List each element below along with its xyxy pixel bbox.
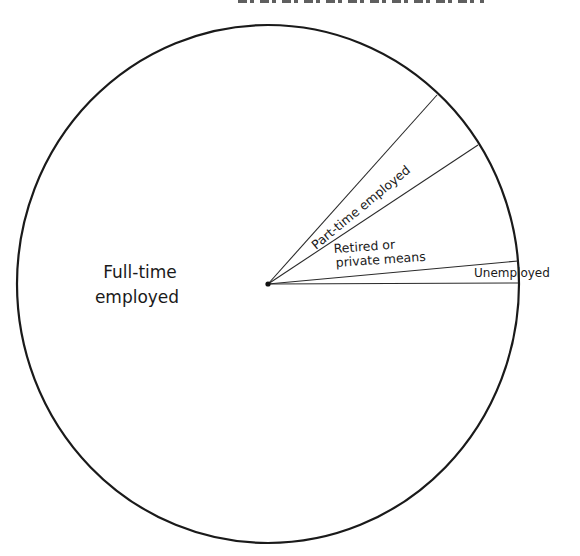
label-unemployed: Unemployed [474,266,550,280]
pie-chart: Full-time employed Part-time employed Re… [0,0,580,556]
pie-center-dot [265,281,270,286]
label-full-time-line1: Full-time [103,262,177,282]
label-full-time-line2: employed [95,287,179,307]
